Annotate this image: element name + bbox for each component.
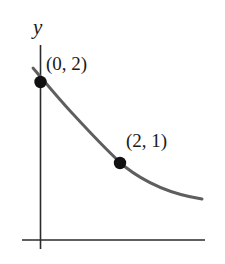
- data-point-label-2-1: (2, 1): [126, 131, 167, 150]
- exponential-decay-figure: y (0, 2) (2, 1): [0, 0, 225, 264]
- data-point-2-1: [114, 157, 126, 169]
- y-axis-label: y: [33, 17, 42, 38]
- plot-canvas: [0, 0, 225, 264]
- exponential-decay-curve: [33, 68, 202, 199]
- data-point-label-0-2: (0, 2): [46, 54, 87, 73]
- data-point-0-2: [34, 76, 46, 88]
